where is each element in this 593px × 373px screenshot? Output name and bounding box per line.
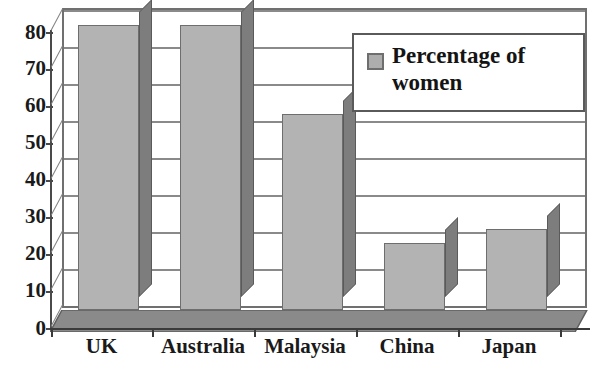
y-tick-label-40: 40 (25, 169, 46, 190)
bar-uk-side (139, 0, 152, 297)
bar-japan-side (547, 203, 560, 297)
y-tick-label-20: 20 (25, 243, 46, 264)
x-label-uk: UK (51, 336, 152, 357)
x-label-australia: Australia (152, 336, 254, 357)
bar-australia-front (180, 25, 241, 310)
y-tick-label-70: 70 (25, 58, 46, 79)
bar-japan-front (486, 229, 547, 310)
bar-uk (78, 25, 139, 310)
y-tick-label-60: 60 (25, 95, 46, 116)
x-axis: UK Australia Malaysia China Japan (0, 336, 593, 370)
bar-china-front (384, 243, 445, 310)
x-label-japan: Japan (458, 336, 560, 357)
y-tick-label-30: 30 (25, 206, 46, 227)
bar-malaysia-side (343, 88, 356, 297)
x-label-china: China (356, 336, 458, 357)
bar-china (384, 243, 445, 310)
legend-swatch-icon (367, 53, 384, 70)
bar-japan (486, 229, 547, 310)
x-axis-line (50, 328, 590, 330)
bar-australia (180, 25, 241, 310)
legend-label: Percentage of women (392, 43, 582, 96)
legend: Percentage of women (352, 33, 585, 112)
bar-chart: 80 70 60 50 40 30 20 10 0 (0, 0, 593, 373)
y-tick-label-50: 50 (25, 132, 46, 153)
bar-uk-front (78, 25, 139, 310)
bar-china-side (445, 217, 458, 297)
bar-malaysia-front (282, 114, 343, 310)
bar-malaysia (282, 114, 343, 310)
y-axis: 80 70 60 50 40 30 20 10 0 (0, 0, 46, 373)
x-label-malaysia: Malaysia (254, 336, 356, 357)
y-tick-label-10: 10 (25, 280, 46, 301)
bar-australia-side (241, 0, 254, 297)
y-tick-label-80: 80 (25, 22, 46, 43)
